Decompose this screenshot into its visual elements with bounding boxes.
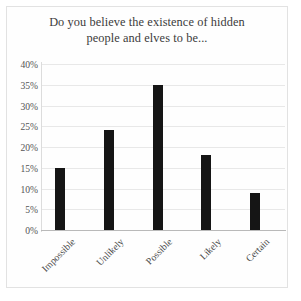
x-axis-tick-labels: ImpossibleUnlikelyPossibleLikelyCertain (42, 232, 285, 288)
y-tick-label: 15% (4, 162, 38, 173)
gridline-35% (42, 85, 285, 86)
bar-unlikely (104, 130, 114, 230)
gridline-30% (42, 106, 285, 107)
x-tick-label: Likely (197, 236, 223, 262)
gridline-15% (42, 168, 285, 169)
y-tick-label: 0% (4, 225, 38, 236)
x-tick-label: Possible (144, 236, 175, 267)
x-tick-label: Impossible (39, 236, 77, 274)
bar-possible (153, 85, 163, 230)
y-tick-label: 25% (4, 121, 38, 132)
gridline-25% (42, 126, 285, 127)
y-axis-tick-labels: 0%5%10%15%20%25%30%35%40% (2, 64, 38, 230)
bar-likely (201, 155, 211, 230)
x-axis-line (41, 230, 286, 231)
y-tick-label: 20% (4, 142, 38, 153)
y-tick-label: 30% (4, 100, 38, 111)
y-tick-label: 5% (4, 204, 38, 215)
bar-impossible (55, 168, 65, 230)
chart-title-line-1: Do you believe the existence of hidden (16, 14, 278, 30)
bar-certain (250, 193, 260, 230)
gridline-20% (42, 147, 285, 148)
x-tick-label: Unlikely (94, 236, 126, 268)
gridline-5% (42, 209, 285, 210)
chart-screenshot: Do you believe the existence of hidden p… (0, 0, 301, 301)
y-tick-label: 35% (4, 79, 38, 90)
y-tick-label: 10% (4, 183, 38, 194)
chart-title: Do you believe the existence of hidden p… (16, 14, 278, 46)
plot-area (42, 64, 285, 230)
y-tick-label: 40% (4, 59, 38, 70)
gridline-40% (42, 64, 285, 65)
gridline-10% (42, 189, 285, 190)
chart-title-line-2: people and elves to be... (16, 30, 278, 46)
x-tick-label: Certain (244, 236, 272, 264)
